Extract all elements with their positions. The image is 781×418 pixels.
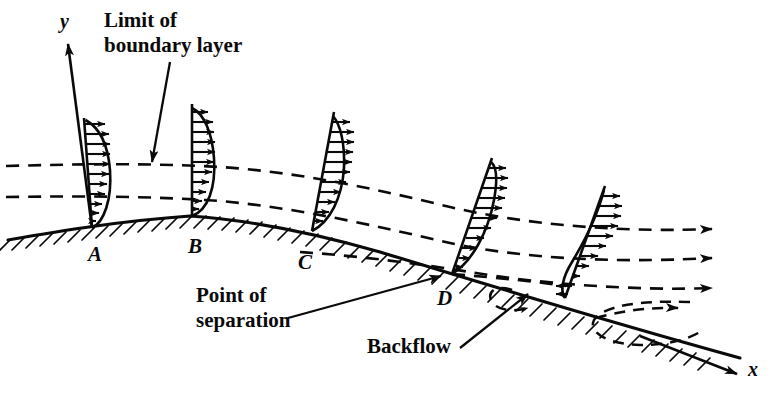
- limit-of-boundary-layer-line2: boundary layer: [104, 33, 242, 58]
- boundary-layer-separation-figure: y x Limit of boundary layer Point of sep…: [0, 0, 781, 418]
- y-axis-label: y: [60, 10, 69, 34]
- leader-backflow: [460, 294, 528, 348]
- point-of-separation-line2: separation: [196, 308, 291, 333]
- x-axis-arrow: [640, 336, 737, 374]
- wall-hatching: [0, 216, 710, 370]
- velocity-profile-C: [312, 112, 354, 231]
- leader-point-of-separation: [288, 276, 441, 318]
- station-label-D: D: [437, 286, 452, 311]
- limit-of-boundary-layer-line1: Limit of: [104, 8, 177, 33]
- station-label-C: C: [298, 250, 312, 275]
- backflow-label: Backflow: [367, 334, 451, 359]
- station-label-A: A: [88, 242, 102, 267]
- point-of-separation-line1: Point of: [196, 283, 267, 308]
- velocity-profile-E: [556, 186, 622, 298]
- station-label-B: B: [188, 234, 202, 259]
- y-axis-arrow: [68, 44, 92, 228]
- streamline-separating: [300, 252, 712, 289]
- leader-limit-of-boundary-layer: [152, 62, 170, 162]
- streamline-outer-1: [6, 164, 712, 230]
- velocity-profile-D: [452, 158, 508, 274]
- profile-E-envelope: [562, 190, 604, 298]
- velocity-profile-A: [84, 118, 110, 228]
- x-axis-label: x: [748, 358, 758, 382]
